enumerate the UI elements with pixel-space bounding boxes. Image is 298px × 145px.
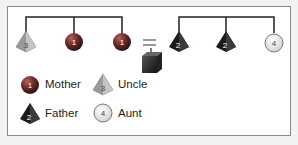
svg-text:1: 1	[28, 81, 33, 90]
svg-text:3: 3	[101, 84, 106, 93]
mother-sphere-icon: 1	[113, 33, 131, 51]
svg-text:4: 4	[272, 39, 277, 48]
mother-sphere-icon: 1	[65, 33, 83, 51]
uncle-pyramid-icon: 3	[16, 31, 36, 52]
svg-text:3: 3	[24, 41, 29, 50]
svg-text:4: 4	[101, 109, 106, 118]
legend-mother-icon: 1	[21, 76, 39, 94]
legend-label-aunt: Aunt	[118, 107, 142, 119]
legend-uncle-icon: 3	[93, 74, 113, 95]
father-pyramid-icon: 2	[169, 31, 189, 52]
svg-text:2: 2	[27, 113, 32, 122]
right-hanger	[179, 17, 274, 33]
aunt-circle-icon: 4	[265, 34, 283, 52]
legend-father-icon: 2	[20, 103, 40, 124]
legend-label-uncle: Uncle	[118, 78, 147, 90]
legend-aunt-icon: 4	[94, 104, 112, 122]
balance-diagram: 3 1 1 2 2 4 1 3	[0, 0, 298, 145]
svg-text:1: 1	[72, 38, 77, 47]
svg-text:2: 2	[223, 41, 228, 50]
legend-label-father: Father	[45, 107, 78, 119]
legend-label-mother: Mother	[45, 78, 81, 90]
father-pyramid-icon: 2	[216, 31, 236, 52]
svg-text:1: 1	[120, 38, 125, 47]
left-hanger	[26, 17, 122, 33]
svg-text:2: 2	[176, 41, 181, 50]
cube-icon	[142, 48, 162, 73]
equals-sign-icon	[143, 40, 156, 45]
